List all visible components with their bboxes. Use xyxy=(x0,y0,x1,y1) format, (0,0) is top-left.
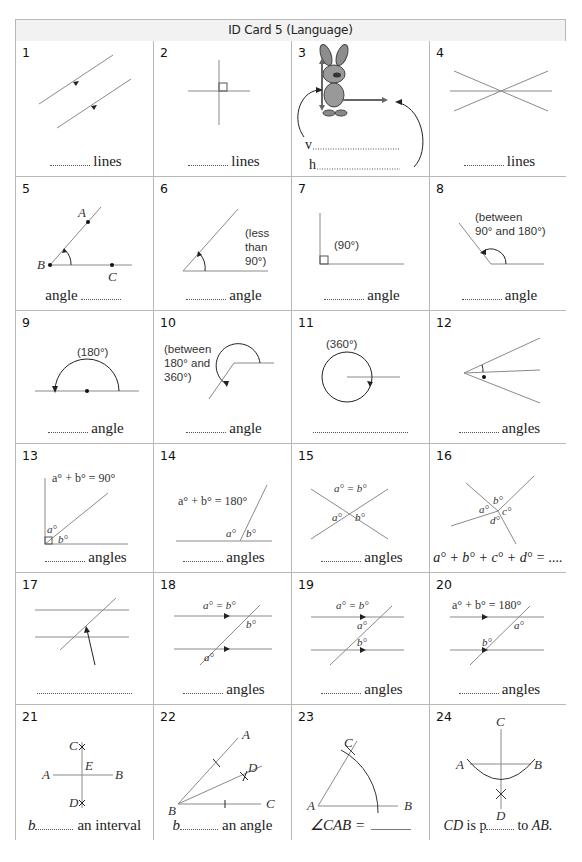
svg-text:than: than xyxy=(245,241,267,253)
svg-text:A: A xyxy=(77,205,86,220)
answer-blank[interactable] xyxy=(462,298,502,300)
cell-20: 20 a° + b° = 180° a° b° angles xyxy=(430,573,566,705)
caption: angles xyxy=(154,549,291,566)
svg-text:b°: b° xyxy=(58,533,69,545)
svg-text:90° and 180°): 90° and 180°) xyxy=(475,225,546,237)
caption: angles xyxy=(292,681,429,698)
svg-text:b°: b° xyxy=(246,618,257,630)
cell-3: 3 v h xyxy=(292,41,430,177)
svg-text:360°): 360°) xyxy=(164,371,192,383)
svg-text:a° + b° = 180°: a° + b° = 180° xyxy=(178,494,247,508)
card-title: ID Card 5 (Language) xyxy=(16,20,565,42)
answer-blank[interactable] xyxy=(313,431,408,433)
svg-text:A: A xyxy=(241,727,250,742)
svg-text:D: D xyxy=(247,760,258,775)
caption: angle xyxy=(154,287,291,304)
cell-11: 11 (360°) xyxy=(292,311,430,444)
cell-17: 17 xyxy=(16,573,154,705)
cell-10: 10 (between 180° and 360°) angle xyxy=(154,311,292,444)
svg-text:a° + b° = 90°: a° + b° = 90° xyxy=(52,471,115,485)
cell-21: 21 C A E B D ban interval xyxy=(16,705,154,840)
answer-blank[interactable] xyxy=(183,560,223,562)
caption xyxy=(292,420,429,437)
svg-text:A: A xyxy=(306,798,315,813)
answer-blank[interactable] xyxy=(180,828,218,830)
cell-15: 15 a° = b° a° b° angles xyxy=(292,444,430,573)
caption: lines xyxy=(16,153,153,170)
svg-text:b°: b° xyxy=(355,511,366,523)
svg-text:90°): 90°) xyxy=(245,255,266,267)
caption: angle xyxy=(430,287,566,304)
answer-blank[interactable] xyxy=(459,431,499,433)
svg-text:B: B xyxy=(404,798,412,813)
svg-text:a° = b°: a° = b° xyxy=(336,599,369,611)
cell-8: 8 (between 90° and 180°) angle xyxy=(430,177,566,311)
cell-1: 1 lines xyxy=(16,41,154,177)
svg-text:E: E xyxy=(84,758,93,773)
caption: a° + b° + c° + d° = .... xyxy=(430,550,566,566)
svg-text:a°: a° xyxy=(357,619,368,631)
svg-text:C: C xyxy=(266,796,275,811)
answer-blank[interactable] xyxy=(186,431,226,433)
answer-blank[interactable] xyxy=(464,164,504,166)
svg-text:(90°): (90°) xyxy=(334,239,359,251)
svg-text:a° = b°: a° = b° xyxy=(203,599,236,611)
svg-text:c°: c° xyxy=(502,505,512,517)
answer-blank[interactable] xyxy=(50,164,90,166)
caption: angle xyxy=(292,287,429,304)
cell-22: 22 A D B C ban angle xyxy=(154,705,292,840)
svg-text:b°: b° xyxy=(246,527,257,539)
svg-text:a° = b°: a° = b° xyxy=(334,482,367,494)
svg-text:B: B xyxy=(115,767,123,782)
caption: ban angle xyxy=(154,817,291,834)
caption: ∠CAB = xyxy=(292,816,429,834)
answer-blank[interactable] xyxy=(324,298,364,300)
svg-text:D: D xyxy=(68,795,79,810)
svg-text:a°: a° xyxy=(226,527,237,539)
caption: angle xyxy=(16,287,153,304)
cell-23: 23 C A B ∠CAB = xyxy=(292,705,430,840)
caption: lines xyxy=(154,153,291,170)
svg-text:C: C xyxy=(69,738,78,753)
answer-blank[interactable] xyxy=(37,692,132,694)
svg-text:h: h xyxy=(309,157,316,172)
svg-text:A: A xyxy=(41,767,50,782)
answer-blank[interactable] xyxy=(48,431,88,433)
cell-18: 18 a° = b° b° a° angles xyxy=(154,573,292,705)
answer-blank[interactable] xyxy=(321,692,361,694)
cell-13: 13 a° + b° = 90° a° b° angles xyxy=(16,444,154,573)
caption: lines xyxy=(430,153,566,170)
cell-9: 9 (180°) angle xyxy=(16,311,154,444)
svg-text:180° and: 180° and xyxy=(164,357,210,369)
caption: angles xyxy=(154,681,291,698)
id-card: ID Card 5 (Language) 1 lines 2 lines 3 xyxy=(15,19,566,840)
answer-blank[interactable] xyxy=(321,560,361,562)
caption: angles xyxy=(292,549,429,566)
svg-text:(between: (between xyxy=(164,343,211,355)
answer-blank[interactable] xyxy=(45,560,85,562)
cell-16: 16 a° b° c° d° a° + b° + c° + d° = .... xyxy=(430,444,566,573)
svg-text:a°: a° xyxy=(47,523,58,535)
answer-blank[interactable] xyxy=(371,828,411,830)
answer-blank[interactable] xyxy=(186,298,226,300)
svg-text:a°: a° xyxy=(479,503,490,515)
rabbit-directions-diagram: v h xyxy=(292,41,430,177)
caption: ban interval xyxy=(16,817,153,834)
caption: CD is pto AB. xyxy=(430,818,566,834)
answer-blank[interactable] xyxy=(35,828,73,830)
answer-blank[interactable] xyxy=(188,164,228,166)
cell-19: 19 a° = b° a° b° angles xyxy=(292,573,430,705)
caption: angle xyxy=(16,420,153,437)
svg-text:C: C xyxy=(344,735,353,750)
caption xyxy=(16,681,153,698)
answer-blank[interactable] xyxy=(81,298,121,300)
svg-text:C: C xyxy=(496,714,505,729)
svg-text:a°: a° xyxy=(204,651,215,663)
answer-blank[interactable] xyxy=(486,828,514,830)
svg-text:a° + b° = 180°: a° + b° = 180° xyxy=(452,598,521,612)
svg-text:b°: b° xyxy=(357,636,368,648)
answer-blank[interactable] xyxy=(459,692,499,694)
cell-12: 12 angles xyxy=(430,311,566,444)
answer-blank[interactable] xyxy=(183,692,223,694)
svg-text:a°: a° xyxy=(332,511,343,523)
